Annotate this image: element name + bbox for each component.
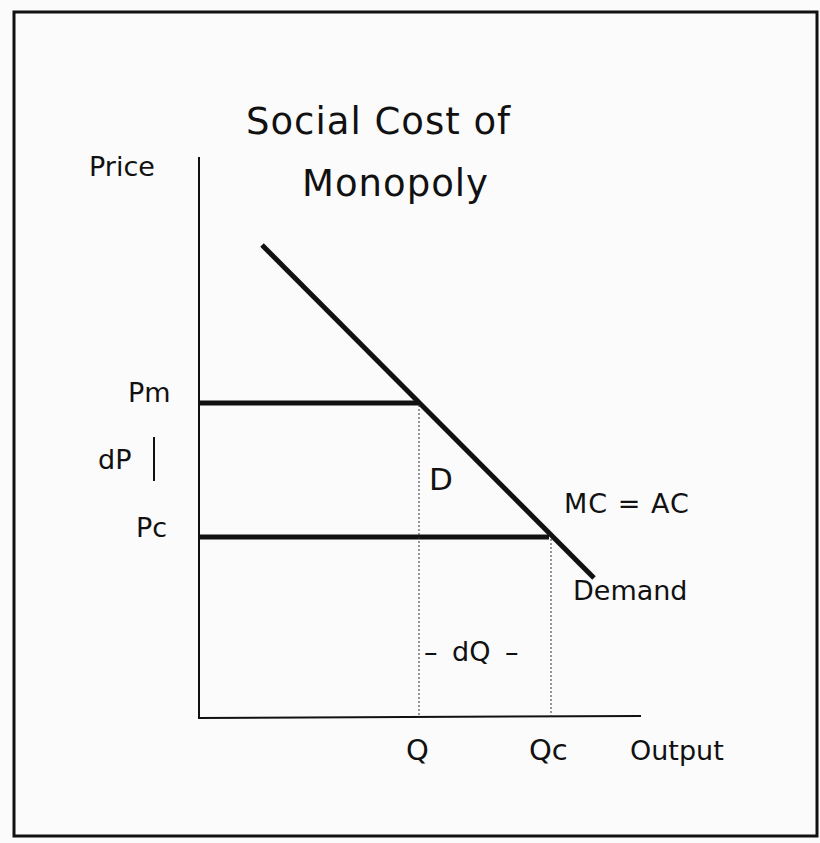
demand-curve (262, 245, 594, 578)
title-line2: Monopoly (302, 162, 489, 205)
pc-label: Pc (136, 512, 167, 543)
x-axis (199, 716, 641, 718)
y-axis-label: Price (89, 151, 155, 182)
title-line1: Social Cost of (246, 100, 511, 143)
qc-label: Qc (529, 733, 568, 767)
dq-label: – dQ – (424, 636, 519, 667)
pm-label: Pm (128, 377, 171, 408)
q-label: Q (406, 733, 429, 767)
mc-ac-label: MC = AC (564, 488, 690, 519)
deadweight-loss-label: D (429, 461, 453, 497)
x-axis-label: Output (630, 735, 724, 766)
dp-label: dP (98, 444, 131, 475)
demand-label: Demand (573, 575, 688, 606)
